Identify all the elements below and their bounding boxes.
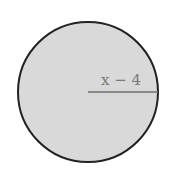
radius-label: x − 4: [101, 71, 141, 89]
circle-diagram: x − 4: [0, 0, 173, 179]
